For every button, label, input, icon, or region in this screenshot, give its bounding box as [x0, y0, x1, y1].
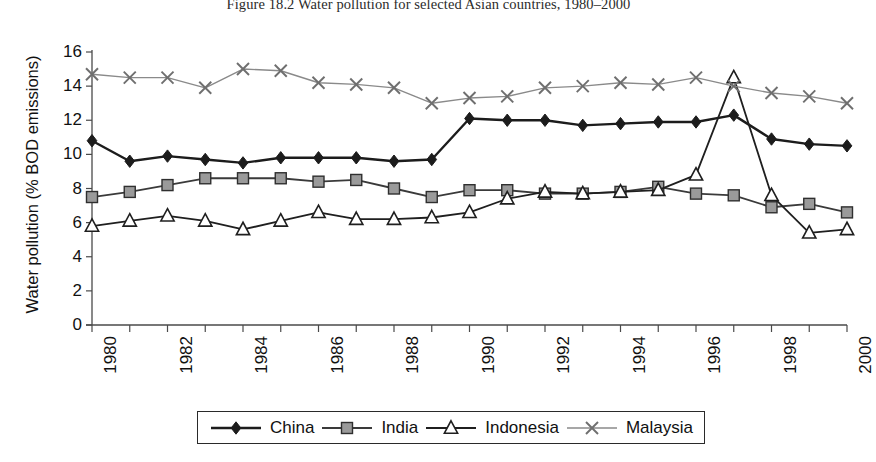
legend-label: Malaysia	[626, 418, 693, 438]
data-point-marker	[125, 155, 135, 167]
data-point-marker	[502, 114, 512, 126]
data-point-marker	[124, 186, 135, 197]
data-point-marker	[87, 135, 97, 147]
data-point-marker	[312, 205, 325, 217]
data-point-marker	[578, 119, 588, 131]
legend-item-india[interactable]: India	[320, 418, 418, 438]
x-tick-label: 2000	[856, 336, 876, 406]
data-point-marker	[351, 174, 362, 185]
legend-item-indonesia[interactable]: Indonesia	[424, 418, 559, 438]
data-point-marker	[163, 150, 173, 162]
legend-items: ChinaIndiaIndonesiaMalaysia	[198, 412, 704, 443]
chart-legend: ChinaIndiaIndonesiaMalaysia	[197, 411, 705, 444]
data-point-marker	[313, 176, 324, 187]
data-point-marker	[616, 117, 626, 129]
data-point-marker	[689, 168, 702, 180]
data-point-marker	[540, 114, 550, 126]
data-point-marker	[351, 152, 361, 164]
legend-item-malaysia[interactable]: Malaysia	[565, 418, 693, 438]
data-point-marker	[728, 190, 739, 201]
legend-marker-open-triangle-icon	[424, 418, 478, 438]
data-point-marker	[653, 116, 663, 128]
data-point-marker	[389, 183, 400, 194]
legend-marker-filled-square-icon	[320, 418, 374, 438]
data-point-marker	[766, 202, 777, 213]
data-point-marker	[200, 173, 211, 184]
data-point-marker	[276, 152, 286, 164]
data-point-marker	[691, 188, 702, 199]
legend-label: India	[381, 418, 418, 438]
data-point-marker	[767, 133, 777, 145]
data-point-marker	[231, 421, 241, 433]
data-point-marker	[804, 138, 814, 150]
series-malaysia	[86, 63, 853, 109]
data-point-marker	[389, 155, 399, 167]
data-point-marker	[840, 222, 853, 234]
data-point-marker	[464, 185, 475, 196]
legend-label: Indonesia	[485, 418, 559, 438]
data-point-marker	[765, 188, 778, 200]
data-point-marker	[87, 192, 98, 203]
series-layer	[85, 63, 853, 238]
data-point-marker	[445, 420, 458, 432]
data-point-marker	[842, 140, 852, 152]
legend-label: China	[270, 418, 314, 438]
data-point-marker	[275, 173, 286, 184]
data-point-marker	[238, 157, 248, 169]
data-point-marker	[314, 152, 324, 164]
data-point-marker	[426, 192, 437, 203]
legend-marker-filled-diamond-icon	[209, 418, 263, 438]
data-point-marker	[691, 116, 701, 128]
data-point-marker	[804, 198, 815, 209]
series-china	[87, 109, 852, 169]
series-indonesia	[85, 70, 853, 238]
data-point-marker	[342, 422, 353, 433]
data-point-marker	[161, 209, 174, 221]
data-point-marker	[200, 153, 210, 165]
data-point-marker	[238, 173, 249, 184]
data-point-marker	[162, 180, 173, 191]
legend-item-china[interactable]: China	[209, 418, 314, 438]
data-point-marker	[729, 109, 739, 121]
legend-marker-cross-x-icon	[565, 418, 619, 438]
data-point-marker	[842, 207, 853, 218]
